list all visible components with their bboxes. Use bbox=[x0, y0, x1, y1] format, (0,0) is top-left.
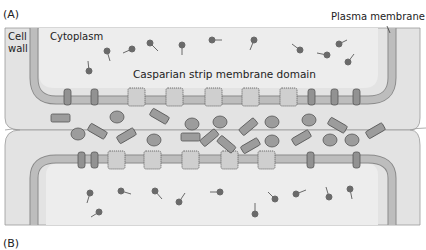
casparian-strip-diagram: (A) Cell wall Cytoplasm Casparian strip … bbox=[0, 0, 426, 250]
casparian-strip-label: Casparian strip membrane domain bbox=[133, 68, 316, 80]
panel-a bbox=[5, 26, 426, 225]
plasma-membrane-label: Plasma membrane bbox=[331, 11, 425, 22]
panel-label-a: (A) bbox=[3, 8, 19, 21]
cell-wall-label-line2: wall bbox=[8, 43, 28, 54]
cytoplasm-label: Cytoplasm bbox=[50, 31, 103, 42]
cell-wall-label-line1: Cell bbox=[8, 31, 27, 42]
panel-label-b: (B) bbox=[3, 237, 19, 250]
